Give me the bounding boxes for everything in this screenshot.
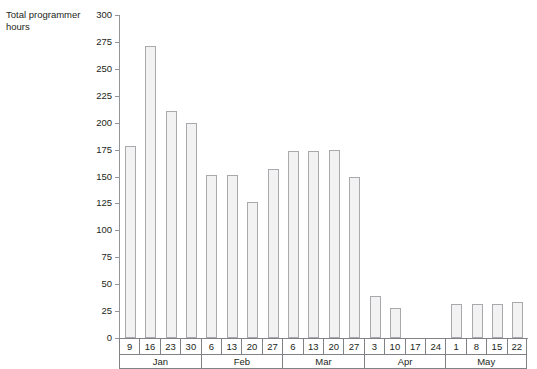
x-axis-day-label: 17 <box>405 338 425 354</box>
x-axis-day-label: 1 <box>445 338 465 354</box>
x-axis-month-label: May <box>445 354 527 369</box>
y-axis-tick-label: 125 <box>96 199 112 209</box>
x-axis-day-label: 22 <box>507 338 527 354</box>
y-axis-tick <box>115 15 119 16</box>
day-label-row: 9162330613202761320273101724181522 <box>119 338 528 354</box>
bar <box>492 304 503 338</box>
x-axis-month-label: Mar <box>282 354 364 369</box>
x-axis-day-label: 30 <box>180 338 200 354</box>
bar <box>206 175 217 338</box>
bar <box>227 175 238 338</box>
y-axis-tick-label: 275 <box>96 37 112 47</box>
y-axis-tick <box>115 177 119 178</box>
bar-chart: Total programmer hours 02550751001251501… <box>0 0 537 369</box>
x-axis-day-label: 13 <box>303 338 323 354</box>
y-axis-tick-label: 50 <box>101 279 112 289</box>
x-axis-day-label: 6 <box>282 338 302 354</box>
y-axis-tick <box>115 257 119 258</box>
y-axis-tick-label: 0 <box>107 333 112 343</box>
y-axis-tick <box>115 230 119 231</box>
x-axis-day-label: 20 <box>241 338 261 354</box>
y-axis-tick <box>115 123 119 124</box>
x-axis-day-label: 16 <box>139 338 159 354</box>
bar <box>288 151 299 338</box>
bars-container <box>120 15 528 338</box>
y-axis-title: Total programmer hours <box>6 9 92 32</box>
x-axis-month-label: Apr <box>364 354 446 369</box>
x-axis-month-label: Jan <box>119 354 201 369</box>
x-axis-day-label: 24 <box>425 338 445 354</box>
x-axis-day-label: 8 <box>466 338 486 354</box>
y-axis-tick-label: 150 <box>96 172 112 182</box>
bar <box>125 146 136 338</box>
y-axis-tick-label: 300 <box>96 10 112 20</box>
y-axis-tick <box>115 284 119 285</box>
x-axis-day-label: 3 <box>364 338 384 354</box>
y-axis-tick-label: 25 <box>101 306 112 316</box>
y-axis-tick <box>115 42 119 43</box>
bar <box>451 304 462 338</box>
plot-area: 0255075100125150175200225250275300 <box>119 15 528 338</box>
y-axis-tick <box>115 69 119 70</box>
x-axis-day-label: 6 <box>201 338 221 354</box>
x-axis-day-label: 13 <box>221 338 241 354</box>
bar <box>186 123 197 338</box>
x-axis-day-label: 23 <box>160 338 180 354</box>
y-axis-tick <box>115 150 119 151</box>
x-axis-month-label: Feb <box>201 354 283 369</box>
y-axis-tick <box>115 96 119 97</box>
bar <box>472 304 483 338</box>
x-axis-day-label: 9 <box>119 338 139 354</box>
x-axis-day-label: 10 <box>384 338 404 354</box>
x-axis-day-label: 27 <box>343 338 363 354</box>
y-axis-tick-label: 175 <box>96 145 112 155</box>
bar <box>308 151 319 338</box>
y-axis-tick-label: 75 <box>101 253 112 263</box>
bar <box>370 296 381 338</box>
x-axis-day-label: 15 <box>486 338 506 354</box>
month-label-row: JanFebMarAprMay <box>119 354 528 369</box>
bar <box>329 150 340 338</box>
bar <box>166 111 177 338</box>
y-axis-tick-label: 225 <box>96 91 112 101</box>
x-axis-labels: 9162330613202761320273101724181522 JanFe… <box>119 338 528 369</box>
y-axis-tick-label: 100 <box>96 226 112 236</box>
x-axis-day-label: 20 <box>323 338 343 354</box>
bar <box>247 202 258 338</box>
y-axis-tick-label: 200 <box>96 118 112 128</box>
bar <box>349 177 360 339</box>
bar <box>268 169 279 338</box>
y-axis-tick <box>115 311 119 312</box>
y-axis-tick <box>115 203 119 204</box>
bar <box>390 308 401 338</box>
y-axis-tick-label: 250 <box>96 64 112 74</box>
bar <box>145 46 156 338</box>
bar <box>512 302 523 338</box>
x-axis-day-label: 27 <box>262 338 282 354</box>
